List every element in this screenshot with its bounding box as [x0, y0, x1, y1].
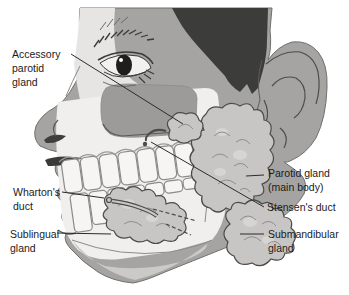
- whartons-duct-opening: [107, 198, 112, 203]
- label-submandibular-gland: Submandibular gland: [268, 227, 339, 255]
- label-stensens-duct: Stensen's duct: [267, 200, 336, 214]
- stensens-duct-opening: [143, 142, 147, 146]
- label-sublingual-gland: Sublingual gland: [10, 227, 59, 255]
- label-whartons-duct: Wharton's duct: [13, 185, 60, 213]
- pupil: [116, 55, 132, 76]
- label-parotid-gland-main-body: Parotid gland (main body): [268, 166, 330, 194]
- label-accessory-parotid-gland: Accessory parotid gland: [12, 47, 60, 89]
- salivary-glands-diagram: Accessory parotid gland Wharton's duct S…: [0, 0, 349, 295]
